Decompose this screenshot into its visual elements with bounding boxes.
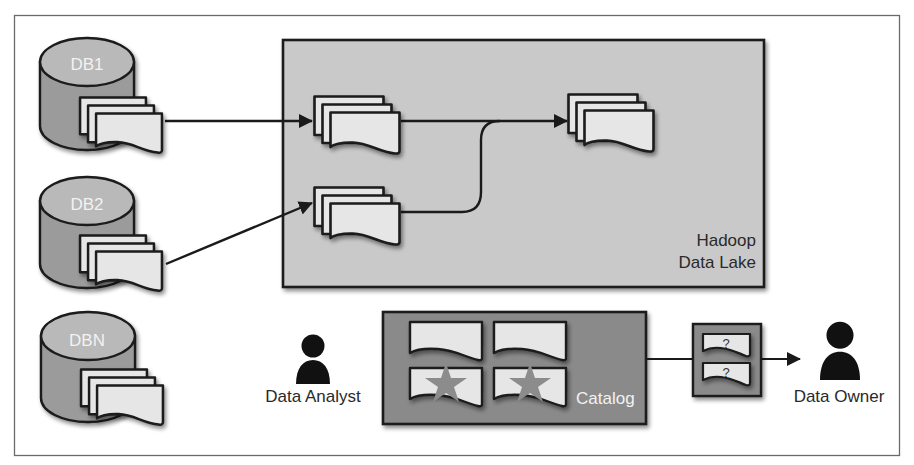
data-lake-label-line1: Hadoop	[696, 231, 756, 250]
catalog-box: Catalog	[383, 312, 646, 424]
question-mark: ?	[722, 336, 729, 351]
data-lake-label-line2: Data Lake	[679, 253, 757, 272]
database-label: DB1	[70, 55, 103, 74]
question-box: ? ?	[693, 324, 761, 396]
data-lake-box: Hadoop Data Lake	[283, 40, 764, 287]
data-analyst-label: Data Analyst	[265, 387, 361, 406]
data-owner-label: Data Owner	[794, 387, 885, 406]
database-label: DB2	[70, 195, 103, 214]
data-lake-diagram: Hadoop Data Lake DB1	[0, 0, 914, 465]
database-label: DBN	[69, 331, 105, 350]
catalog-label: Catalog	[576, 389, 635, 408]
question-mark: ?	[722, 365, 729, 380]
